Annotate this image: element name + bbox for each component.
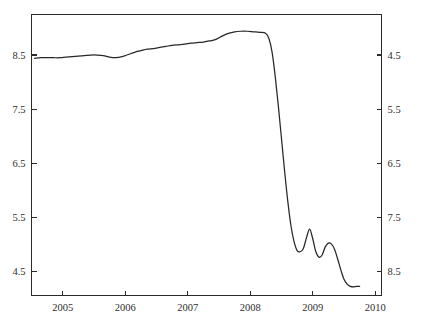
y-axis-label-left: 4.5	[12, 266, 25, 277]
x-axis-label: 2006	[115, 302, 136, 313]
y-axis-label-right: 8.5	[388, 266, 401, 277]
y-axis-label-left: 8.5	[12, 50, 25, 61]
data-series-group	[35, 31, 360, 287]
chart-container: 4.58.55.57.56.56.57.55.58.54.52005200620…	[0, 0, 425, 331]
x-axis-label: 2008	[240, 302, 261, 313]
x-axis-label: 2007	[177, 302, 198, 313]
plot-border	[32, 15, 382, 296]
y-axis-label-right: 5.5	[388, 104, 401, 115]
y-axis-label-left: 7.5	[12, 104, 25, 115]
axis-ticks	[32, 55, 382, 295]
y-axis-label-right: 6.5	[388, 158, 401, 169]
y-axis-label-left: 5.5	[12, 212, 25, 223]
plot-frame	[32, 15, 382, 296]
data-line-series-1	[35, 31, 360, 287]
x-axis-label: 2005	[52, 302, 73, 313]
x-axis-label: 2009	[302, 302, 323, 313]
y-axis-label-right: 4.5	[388, 50, 401, 61]
x-axis-label: 2010	[365, 302, 386, 313]
y-axis-label-right: 7.5	[388, 212, 401, 223]
y-axis-label-left: 6.5	[12, 158, 25, 169]
line-chart: 4.58.55.57.56.56.57.55.58.54.52005200620…	[0, 0, 425, 331]
